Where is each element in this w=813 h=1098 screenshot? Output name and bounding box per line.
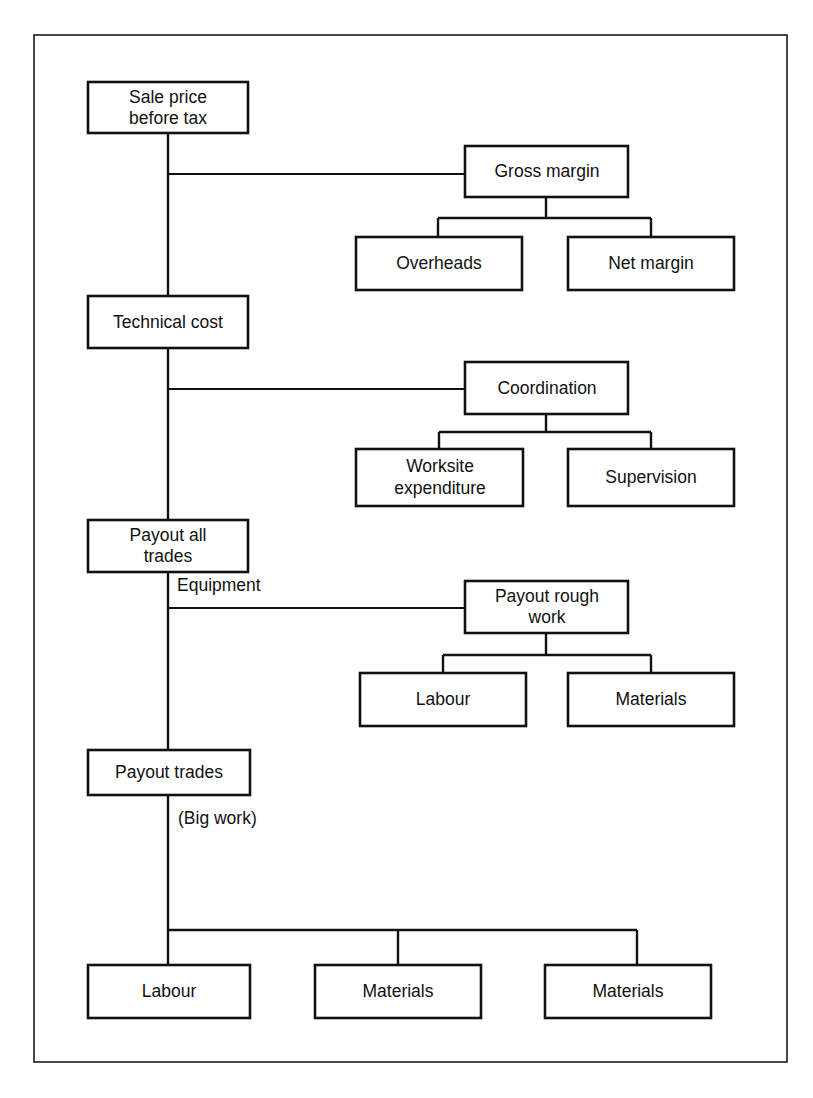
node-label-labour-big: Labour (142, 981, 197, 1001)
node-overheads[interactable]: Overheads (356, 237, 522, 290)
node-payout-all-trades[interactable]: Payout all trades (88, 520, 248, 572)
node-coordination[interactable]: Coordination (465, 362, 628, 414)
node-label-supervision: Supervision (605, 467, 696, 487)
node-label-payout-all-trades-line1: Payout all (130, 525, 207, 545)
node-label-coordination: Coordination (497, 378, 596, 398)
node-sale-price-before-tax[interactable]: Sale price before tax (88, 82, 248, 133)
node-label-payout-all-trades-line2: trades (144, 546, 193, 566)
node-label-worksite-expenditure-line2: expenditure (394, 478, 485, 498)
node-gross-margin[interactable]: Gross margin (465, 146, 628, 197)
node-label-worksite-expenditure-line1: Worksite (406, 456, 474, 476)
node-label-sale-price-line2: before tax (129, 108, 207, 128)
node-label-materials-rough: Materials (616, 689, 687, 709)
node-label-materials-big-2: Materials (593, 981, 664, 1001)
node-label-sale-price-line1: Sale price (129, 87, 207, 107)
node-supervision[interactable]: Supervision (568, 449, 734, 506)
node-label-overheads: Overheads (396, 253, 482, 273)
node-payout-trades[interactable]: Payout trades (88, 750, 250, 795)
node-label-technical-cost: Technical cost (113, 312, 223, 332)
node-label-payout-trades: Payout trades (115, 762, 223, 782)
node-labour-rough[interactable]: Labour (360, 673, 526, 726)
node-technical-cost[interactable]: Technical cost (88, 296, 248, 348)
node-label-gross-margin: Gross margin (494, 161, 599, 181)
node-materials-big-2[interactable]: Materials (545, 965, 711, 1018)
node-label-labour-rough: Labour (416, 689, 471, 709)
node-label-net-margin: Net margin (608, 253, 694, 273)
edge-label-equipment: Equipment (177, 575, 261, 595)
node-label-payout-rough-work-line1: Payout rough (495, 586, 599, 606)
node-materials-rough[interactable]: Materials (568, 673, 734, 726)
edge-label-big-work: (Big work) (178, 808, 257, 828)
node-materials-big-1[interactable]: Materials (315, 965, 481, 1018)
node-label-payout-rough-work-line2: work (528, 607, 566, 627)
node-label-materials-big-1: Materials (363, 981, 434, 1001)
diagram-page: Sale price before tax Technical cost Pay… (0, 0, 813, 1098)
node-labour-big[interactable]: Labour (88, 965, 250, 1018)
cost-breakdown-diagram: Sale price before tax Technical cost Pay… (0, 0, 813, 1098)
node-worksite-expenditure[interactable]: Worksite expenditure (356, 449, 523, 506)
node-net-margin[interactable]: Net margin (568, 237, 734, 290)
node-payout-rough-work[interactable]: Payout rough work (465, 581, 628, 633)
